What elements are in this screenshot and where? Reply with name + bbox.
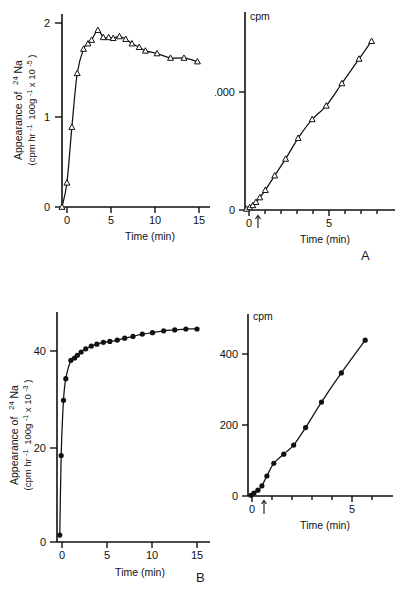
data-point (69, 124, 75, 129)
y-tick-label-40: 40 (34, 345, 46, 357)
data-point (95, 27, 101, 32)
data-point (89, 343, 94, 348)
y-ticks (55, 23, 62, 207)
x-tick-label-5: 5 (326, 217, 332, 229)
injection-arrow-icon (256, 216, 261, 229)
data-point (363, 338, 368, 343)
y-axis-title-line1: Appearance of 24 Na (7, 385, 21, 485)
x-tick-label-0: 0 (246, 217, 252, 229)
x-tick-label-0: 0 (59, 549, 65, 561)
x-ticks (67, 207, 199, 213)
data-point (64, 180, 70, 185)
x-tick-label-15: 15 (191, 549, 203, 561)
series-markers (59, 27, 200, 209)
data-point (59, 453, 64, 458)
data-point (161, 328, 166, 333)
data-point (129, 41, 135, 46)
x-axis-title: Time (min) (115, 566, 165, 578)
y-ticks (50, 351, 57, 542)
data-point (303, 425, 308, 430)
y-tick-label-0: 0 (232, 490, 238, 502)
data-point (339, 370, 344, 375)
x-axis-title: Time (min) (300, 233, 350, 245)
data-point (194, 326, 199, 331)
data-point (83, 346, 88, 351)
data-point (115, 337, 120, 342)
data-point (319, 399, 324, 404)
chart-panel-a-right: cpm 0 1000 0 5 Time (min) (215, 0, 399, 250)
x-tick-label-0: 0 (64, 214, 70, 226)
y-tick-label-0: 0 (40, 536, 46, 548)
data-point (122, 336, 127, 341)
y-axis-title: cpm (250, 10, 270, 22)
y-tick-label-0: 0 (229, 204, 235, 216)
y-tick-label-1000: 1000 (215, 86, 235, 98)
x-tick-label-0: 0 (249, 503, 255, 515)
data-point (172, 327, 177, 332)
data-point (130, 334, 135, 339)
data-point (271, 461, 276, 466)
x-tick-label-15: 15 (193, 214, 205, 226)
data-point (291, 442, 296, 447)
data-point (140, 331, 145, 336)
y-tick-label-20: 20 (34, 442, 46, 454)
data-point (107, 339, 112, 344)
x-ticks (62, 542, 197, 548)
data-point (63, 376, 68, 381)
chart-panel-a-left: 0 1 2 0 5 10 15 Time (min) Appearance of… (0, 0, 215, 250)
y-axis-title-line1: Appearance of 24 Na (11, 60, 25, 160)
data-point (369, 38, 375, 43)
y-tick-label-400: 400 (220, 348, 238, 360)
data-point (116, 33, 122, 38)
series-curve (247, 41, 372, 209)
y-tick-label-1: 1 (44, 111, 50, 123)
panel-letter-a: A (361, 248, 370, 263)
data-point (183, 326, 188, 331)
x-ticks (249, 210, 377, 216)
panel-letter-b: B (196, 570, 205, 585)
data-point (150, 330, 155, 335)
data-point (94, 342, 99, 347)
panel-a: 0 1 2 0 5 10 15 Time (min) Appearance of… (0, 0, 399, 275)
y-tick-label-200: 200 (220, 419, 238, 431)
series-curve (62, 30, 197, 207)
x-tick-label-10: 10 (146, 549, 158, 561)
data-point (89, 37, 95, 42)
chart-panel-b-right: cpm 0 200 400 0 5 Time (min) (215, 300, 399, 590)
data-point (281, 452, 286, 457)
data-point (74, 70, 80, 75)
data-point (79, 349, 84, 354)
x-axis-title: Time (min) (125, 230, 175, 242)
series-curve (251, 340, 365, 495)
x-tick-label-10: 10 (149, 214, 161, 226)
x-tick-label-5: 5 (104, 549, 110, 561)
data-point (264, 473, 269, 478)
y-ticks (242, 354, 248, 496)
x-tick-label-5: 5 (349, 503, 355, 515)
data-point (61, 398, 66, 403)
data-point (123, 36, 129, 41)
panel-b: 0 20 40 0 5 10 15 Time (min) Appearance … (0, 300, 399, 595)
chart-panel-b-left: 0 20 40 0 5 10 15 Time (min) Appearance … (0, 300, 215, 590)
y-axis-title-line2: (cpm hr -1 100g -1 x 10 -3 ) (22, 379, 34, 490)
data-point (101, 340, 106, 345)
x-tick-label-5: 5 (108, 214, 114, 226)
data-point (57, 533, 62, 538)
data-point (81, 46, 87, 51)
y-axis-title-line2: (cpm hr -1 100g -1 x 10 -5 ) (26, 54, 38, 165)
data-point (259, 483, 264, 488)
series-markers (57, 326, 199, 537)
injection-arrow-icon (262, 501, 267, 515)
data-point (255, 488, 260, 493)
x-axis-title: Time (min) (300, 519, 350, 531)
series-curve (60, 329, 197, 535)
y-tick-label-0: 0 (44, 201, 50, 213)
x-ticks (252, 496, 372, 502)
y-axis-title: cpm (253, 310, 273, 322)
y-ticks (239, 92, 245, 210)
y-tick-label-2: 2 (44, 17, 50, 29)
